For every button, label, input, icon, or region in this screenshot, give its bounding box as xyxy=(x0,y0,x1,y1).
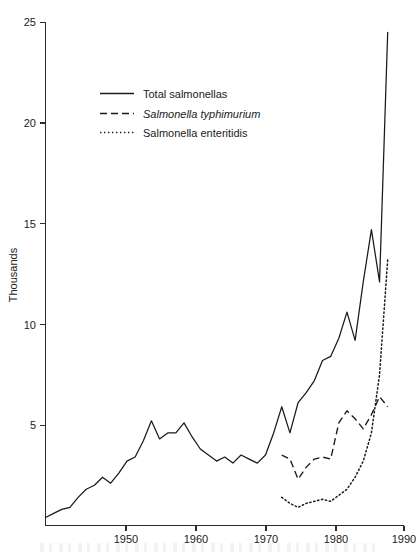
chart-legend: Total salmonellas Salmonella typhimurium… xyxy=(100,88,260,139)
legend-label-typhimurium: Salmonella typhimurium xyxy=(143,108,260,120)
y-axis-title: Thousands xyxy=(7,247,19,302)
x-tick-label: 1990 xyxy=(392,533,416,545)
y-tick-label: 5 xyxy=(30,419,36,431)
y-tick-label: 10 xyxy=(24,319,36,331)
legend-label-total: Total salmonellas xyxy=(143,88,228,100)
salmonella-trend-line-chart: 5 10 15 20 25 1950 1960 1970 1980 1990 T… xyxy=(0,0,420,554)
y-tick-label: 15 xyxy=(24,218,36,230)
y-axis-ticks: 5 10 15 20 25 xyxy=(24,16,46,431)
y-tick-label: 20 xyxy=(24,117,36,129)
chart-figure: 5 10 15 20 25 1950 1960 1970 1980 1990 T… xyxy=(0,0,420,554)
y-tick-label: 25 xyxy=(24,16,36,28)
series-salmonella-typhimurium xyxy=(282,397,388,480)
caption-remnant xyxy=(40,543,380,552)
series-total-salmonellas xyxy=(46,32,388,517)
legend-label-enteritidis: Salmonella enteritidis xyxy=(143,127,248,139)
series-salmonella-enteritidis xyxy=(282,260,388,508)
